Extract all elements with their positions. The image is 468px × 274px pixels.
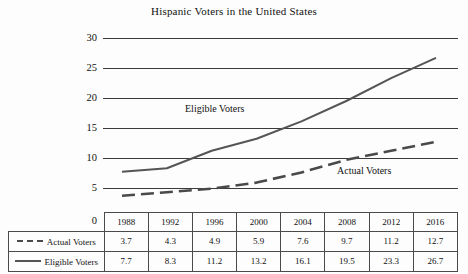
y-tick-5: 5 bbox=[92, 183, 97, 194]
table-cell: 16.1 bbox=[281, 251, 325, 271]
chart-figure: Hispanic Voters in the United States 302… bbox=[0, 0, 468, 274]
solid-line-swatch bbox=[15, 260, 41, 262]
table-cell: 9.7 bbox=[325, 232, 369, 252]
y-tick-20: 20 bbox=[87, 93, 98, 104]
table-col-header-2008: 2008 bbox=[325, 213, 369, 232]
table-row-label: Actual Voters bbox=[47, 237, 96, 247]
y-tick-15: 15 bbox=[87, 123, 98, 134]
table-cell: 26.7 bbox=[413, 251, 457, 271]
table-cell: 7.6 bbox=[281, 232, 325, 252]
table-cell: 4.3 bbox=[148, 232, 192, 252]
chart-title: Hispanic Voters in the United States bbox=[0, 5, 468, 17]
dashed-line-swatch bbox=[17, 240, 43, 242]
y-tick-30: 30 bbox=[87, 33, 98, 44]
table-header-row: 19881992199620002004200820122016 bbox=[9, 213, 458, 232]
table-row: Eligible Voters7.78.311.213.216.119.523.… bbox=[9, 251, 458, 271]
table-cell: 7.7 bbox=[104, 251, 148, 271]
table-cell: 13.2 bbox=[237, 251, 281, 271]
table-cell: 19.5 bbox=[325, 251, 369, 271]
y-tick-10: 10 bbox=[87, 153, 98, 164]
table-cell: 11.2 bbox=[192, 251, 236, 271]
table-col-header-1992: 1992 bbox=[148, 213, 192, 232]
annotation-actual-voters: Actual Voters bbox=[337, 165, 391, 176]
table-col-header-2016: 2016 bbox=[413, 213, 457, 232]
table-row-label: Eligible Voters bbox=[45, 257, 98, 267]
table-cell: 3.7 bbox=[104, 232, 148, 252]
table-body: Actual Voters3.74.34.95.97.69.711.212.7E… bbox=[9, 232, 458, 272]
table-col-header-1996: 1996 bbox=[192, 213, 236, 232]
table-cell: 12.7 bbox=[413, 232, 457, 252]
table-cell: 11.2 bbox=[369, 232, 413, 252]
table-corner-cell bbox=[9, 213, 105, 232]
data-table: 19881992199620002004200820122016 Actual … bbox=[8, 212, 458, 272]
series-line-eligible-voters bbox=[122, 58, 436, 172]
table-col-header-1988: 1988 bbox=[104, 213, 148, 232]
table-row-legend: Eligible Voters bbox=[9, 251, 105, 271]
table-cell: 4.9 bbox=[192, 232, 236, 252]
table-cell: 23.3 bbox=[369, 251, 413, 271]
table-col-header-2004: 2004 bbox=[281, 213, 325, 232]
table-row: Actual Voters3.74.34.95.97.69.711.212.7 bbox=[9, 232, 458, 252]
y-tick-25: 25 bbox=[87, 63, 98, 74]
table-col-header-2012: 2012 bbox=[369, 213, 413, 232]
series-lines bbox=[103, 38, 458, 218]
y-axis-tick-labels: 30252015105 bbox=[63, 38, 97, 218]
table-col-header-2000: 2000 bbox=[237, 213, 281, 232]
plot-area bbox=[103, 38, 458, 218]
annotation-eligible-voters: Eligible Voters bbox=[185, 103, 244, 114]
table-cell: 8.3 bbox=[148, 251, 192, 271]
table-row-legend: Actual Voters bbox=[9, 232, 105, 252]
table-cell: 5.9 bbox=[237, 232, 281, 252]
